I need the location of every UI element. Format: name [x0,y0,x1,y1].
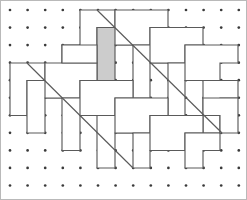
grid-dot [167,167,170,170]
grid-dot [237,184,240,187]
grid-dot [61,184,64,187]
grid-dot [44,44,47,47]
grid-dot [26,167,29,170]
tiling-figure [0,0,247,200]
grid-dot [237,9,240,12]
grid-dot [61,9,64,12]
grid-dot [9,149,12,152]
grid-dot [132,184,135,187]
grid-dot [202,9,205,12]
grid-dot [185,184,188,187]
grid-dot [220,167,223,170]
grid-dot [44,167,47,170]
grid-dot [97,184,100,187]
grid-dot [79,167,82,170]
grid-dot [9,44,12,47]
grid-dot [220,26,223,29]
tile [185,45,238,81]
grid-dot [185,9,188,12]
figure-container [0,0,247,200]
grid-dot [44,149,47,152]
grid-dot [220,9,223,12]
grid-dot [237,167,240,170]
grid-dot [61,167,64,170]
grid-dot [26,26,29,29]
grid-dot [220,184,223,187]
grid-dot [9,184,12,187]
grid-dot [9,9,12,12]
grid-dot [26,149,29,152]
grid-dot [44,9,47,12]
grid-dot [79,184,82,187]
grid-dot [44,184,47,187]
tile [62,45,97,63]
grid-dot [237,26,240,29]
grid-dot [237,149,240,152]
grid-dot [26,9,29,12]
tile-layer [10,10,238,168]
grid-dot [9,26,12,29]
grid-dot [44,26,47,29]
grid-dot [26,44,29,47]
grid-dot [61,26,64,29]
grid-dot [9,167,12,170]
grid-dot [167,184,170,187]
tile [185,133,220,168]
grid-dot [202,184,205,187]
grid-dot [149,184,152,187]
grid-dot [26,184,29,187]
grid-dot [9,132,12,135]
grid-dot [114,184,117,187]
